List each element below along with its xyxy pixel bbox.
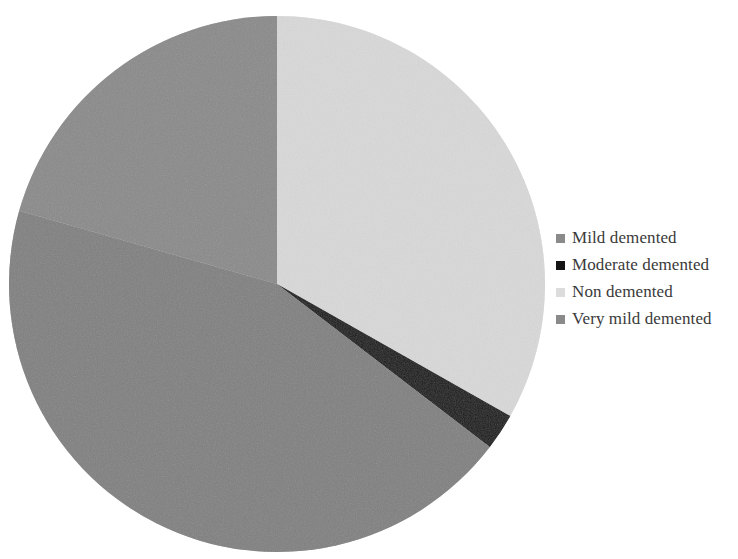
pie-grain-overlay xyxy=(9,16,545,552)
legend-item-very-mild-demented[interactable]: Very mild demented xyxy=(556,305,738,332)
chart-legend: Mild demented Moderate demented Non deme… xyxy=(556,224,738,332)
legend-square-marker-icon xyxy=(556,234,565,243)
legend-square-marker-icon xyxy=(556,261,565,270)
legend-item-non-demented[interactable]: Non demented xyxy=(556,278,738,305)
legend-item-label: Non demented xyxy=(572,282,673,301)
legend-item-label: Moderate demented xyxy=(572,255,709,274)
legend-item-label: Mild demented xyxy=(572,228,677,247)
pie-plot-area xyxy=(0,0,560,559)
pie-svg xyxy=(0,0,560,559)
legend-square-marker-icon xyxy=(556,315,565,324)
legend-item-mild-demented[interactable]: Mild demented xyxy=(556,224,738,251)
pie-chart-figure: Mild demented Moderate demented Non deme… xyxy=(0,0,738,559)
legend-item-label: Very mild demented xyxy=(572,309,712,328)
legend-item-moderate-demented[interactable]: Moderate demented xyxy=(556,251,738,278)
legend-square-marker-icon xyxy=(556,288,565,297)
